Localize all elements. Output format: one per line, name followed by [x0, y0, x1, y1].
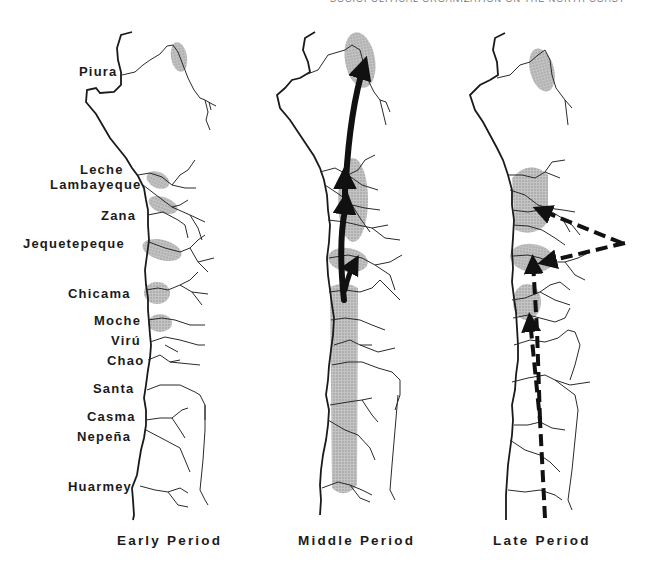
coastline-early — [86, 32, 151, 520]
period-label-middle: Middle Period — [298, 533, 415, 548]
valley-label-chao: Chao — [107, 353, 144, 368]
map-middle-period — [277, 30, 402, 515]
valley-label-leche: Leche — [80, 162, 124, 177]
valley-label-piura: Piura — [79, 64, 118, 79]
valley-label-chicama: Chicama — [68, 286, 131, 301]
valley-label-nepena: Nepeña — [77, 429, 131, 444]
valley-label-viru: Virú — [111, 333, 141, 348]
valley-label-casma: Casma — [87, 409, 136, 424]
valley-label-zana: Zana — [101, 208, 136, 223]
shaded-areas-early — [140, 41, 189, 332]
map-late-period — [470, 33, 625, 520]
period-label-early: Early Period — [117, 533, 222, 548]
north-coast-maps-figure: SOCIOPOLITICAL ORGANIZATION ON THE NORTH… — [0, 0, 649, 576]
valley-label-santa: Santa — [93, 381, 134, 396]
coastline-middle — [277, 32, 334, 515]
valley-label-lambayeque: Lambayeque — [50, 177, 141, 192]
shaded-areas-late — [508, 46, 559, 320]
valley-label-jequetepeque: Jequetepeque — [23, 236, 125, 251]
map-early-period — [86, 32, 216, 520]
coastline-late — [470, 33, 518, 520]
valley-label-huarmey: Huarmey — [68, 479, 132, 494]
valley-label-moche: Moche — [94, 313, 141, 328]
period-label-late: Late Period — [493, 533, 591, 548]
